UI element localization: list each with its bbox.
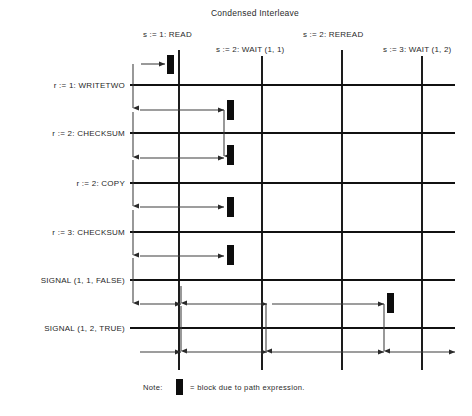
note-suffix-label: = block due to path expression. bbox=[190, 383, 305, 392]
canvas-background bbox=[0, 0, 472, 416]
block-marker-block-2 bbox=[227, 100, 234, 120]
diagram-title: Condensed Interleave bbox=[211, 8, 299, 18]
block-marker-block-1 bbox=[167, 55, 174, 74]
diagram-canvas: Condensed Interleave s := 1: READs := 2:… bbox=[0, 0, 472, 416]
row-label-row-copy: r := 2: COPY bbox=[76, 179, 125, 188]
column-header-col-wait11: s := 2: WAIT (1, 1) bbox=[216, 45, 285, 54]
block-marker-block-6 bbox=[387, 293, 394, 313]
column-header-col-wait12: s := 3: WAIT (1, 2) bbox=[383, 45, 452, 54]
block-legend-icon bbox=[176, 379, 183, 395]
row-label-row-checksum3: r := 3: CHECKSUM bbox=[52, 228, 125, 237]
condensed-interleave-diagram: Condensed Interleave s := 1: READs := 2:… bbox=[0, 0, 472, 416]
column-header-col-reread: s := 2: REREAD bbox=[303, 30, 363, 39]
note-prefix-label: Note: bbox=[143, 383, 163, 392]
row-label-row-writetwo: r := 1: WRITETWO bbox=[54, 81, 125, 90]
block-marker-block-4 bbox=[227, 197, 234, 217]
row-label-row-signal12: SIGNAL (1, 2, TRUE) bbox=[44, 324, 125, 333]
row-label-row-signal11: SIGNAL (1, 1, FALSE) bbox=[41, 276, 125, 285]
block-marker-block-5 bbox=[227, 245, 234, 265]
column-header-col-read: s := 1: READ bbox=[143, 30, 192, 39]
block-marker-block-3 bbox=[227, 145, 234, 165]
row-label-row-checksum2: r := 2: CHECKSUM bbox=[52, 129, 125, 138]
